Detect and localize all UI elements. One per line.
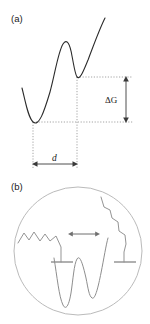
energy-curve-panel-b xyxy=(54,238,108,307)
center-double-arrow xyxy=(68,232,100,237)
distance-arrow: d xyxy=(32,153,78,167)
center-arrowhead-right xyxy=(95,232,100,237)
delta-g-arrowhead-down xyxy=(123,118,129,124)
panel-a-label: (a) xyxy=(11,13,23,24)
delta-g-label: ΔG xyxy=(105,95,118,105)
distance-label: d xyxy=(52,153,57,163)
afm-tip-left-jagged-edge xyxy=(18,232,61,262)
figure-root: (a) ΔG xyxy=(0,0,150,324)
center-arrowhead-left xyxy=(68,232,73,237)
panel-b: (b) xyxy=(11,181,142,315)
panel-a: (a) ΔG xyxy=(11,13,133,168)
panel-b-circle xyxy=(14,187,142,315)
energy-curve-panel-a xyxy=(22,18,105,123)
afm-tip-left xyxy=(18,232,73,262)
panel-b-label: (b) xyxy=(11,181,23,192)
figure-canvas: (a) ΔG xyxy=(0,0,150,324)
delta-g-arrow: ΔG xyxy=(105,76,129,123)
afm-tip-right xyxy=(101,197,136,262)
panel-a-guides xyxy=(33,77,133,168)
